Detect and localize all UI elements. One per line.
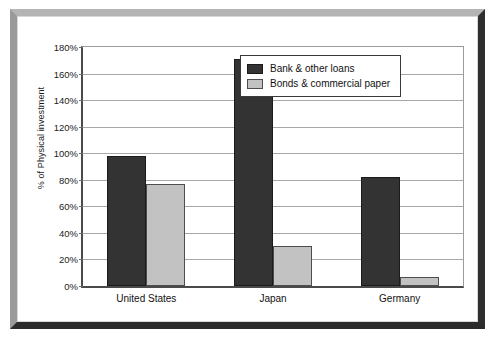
y-axis-tick-label: 0% xyxy=(64,281,78,292)
bar-bank-other-loans xyxy=(107,156,146,286)
y-axis-tick-mark xyxy=(79,259,83,260)
y-axis-tick-label: 140% xyxy=(54,95,78,106)
legend-label: Bonds & commercial paper xyxy=(270,78,390,89)
bar-bank-other-loans xyxy=(361,177,400,286)
x-axis-tick-label: United States xyxy=(116,293,176,304)
y-axis-tick-label: 20% xyxy=(59,254,78,265)
figure-outer-frame: % of Physical investment 0%20%40%60%80%1… xyxy=(10,9,485,329)
bar-bonds-commercial-paper xyxy=(273,246,312,286)
y-axis-tick-label: 180% xyxy=(54,42,78,53)
legend-swatch-icon xyxy=(247,64,263,74)
y-axis-tick-label: 40% xyxy=(59,227,78,238)
y-axis-tick-mark xyxy=(79,47,83,48)
y-axis-tick-mark xyxy=(79,100,83,101)
gridline xyxy=(83,153,463,154)
legend-label: Bank & other loans xyxy=(270,63,355,74)
chart-legend: Bank & other loans Bonds & commercial pa… xyxy=(240,55,401,97)
y-axis-tick-mark xyxy=(79,127,83,128)
legend-item: Bank & other loans xyxy=(247,61,390,76)
legend-swatch-icon xyxy=(247,79,263,89)
y-axis-tick-label: 80% xyxy=(59,174,78,185)
y-axis-tick-mark xyxy=(79,153,83,154)
y-axis-tick-mark xyxy=(79,74,83,75)
figure-inner-panel: % of Physical investment 0%20%40%60%80%1… xyxy=(17,16,478,322)
chart-container: % of Physical investment 0%20%40%60%80%1… xyxy=(18,17,479,323)
gridline xyxy=(83,127,463,128)
y-axis-tick-mark xyxy=(79,206,83,207)
x-axis-tick-label: Japan xyxy=(259,293,286,304)
y-axis-tick-label: 100% xyxy=(54,148,78,159)
y-axis-tick-label: 60% xyxy=(59,201,78,212)
y-axis-tick-label: 160% xyxy=(54,68,78,79)
y-axis-tick-mark xyxy=(79,286,83,287)
y-axis-tick-mark xyxy=(79,180,83,181)
gridline xyxy=(83,100,463,101)
legend-item: Bonds & commercial paper xyxy=(247,76,390,91)
x-axis-tick-label: Germany xyxy=(379,293,420,304)
bar-bonds-commercial-paper xyxy=(400,277,439,286)
y-axis-title: % of Physical investment xyxy=(36,63,46,213)
y-axis-tick-label: 120% xyxy=(54,121,78,132)
y-axis-tick-mark xyxy=(79,233,83,234)
bar-bonds-commercial-paper xyxy=(146,184,185,286)
